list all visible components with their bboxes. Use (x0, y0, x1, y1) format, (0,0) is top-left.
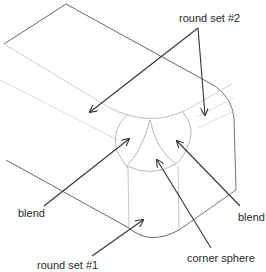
label-round-set-2: round set #2 (179, 13, 240, 24)
side-face-light-line (0, 80, 118, 140)
solid-body (0, 4, 236, 238)
label-blend-left: blend (18, 208, 45, 219)
diagram-canvas (0, 0, 266, 272)
round-set-2-front-curve (110, 108, 186, 119)
top-face-front-edge (4, 44, 110, 108)
blend-right-outline (176, 112, 191, 164)
label-corner-sphere: corner sphere (187, 253, 255, 264)
arrow-round-set-2-right (198, 28, 205, 115)
arrow-round-set-1 (92, 220, 143, 256)
label-blend-right: blend (238, 212, 265, 223)
label-round-set-1: round set #1 (37, 260, 98, 271)
blend-divider (127, 120, 150, 166)
side-face-light-line-2 (198, 110, 236, 128)
round-set-1-left-edge (128, 168, 129, 228)
arrow-blend-left (44, 139, 129, 206)
round-set-1-right-edge (178, 166, 179, 230)
round-set-2-right-inner (186, 84, 232, 110)
round-set-2-right-edge (215, 86, 236, 190)
corner-sphere-bottom (127, 164, 176, 172)
arrow-corner-sphere (157, 160, 211, 248)
arrow-round-set-2-left (90, 28, 198, 112)
arrow-blend-right (177, 141, 240, 206)
bottom-rounded-edge (129, 228, 179, 238)
blend-divider-2 (150, 120, 176, 164)
